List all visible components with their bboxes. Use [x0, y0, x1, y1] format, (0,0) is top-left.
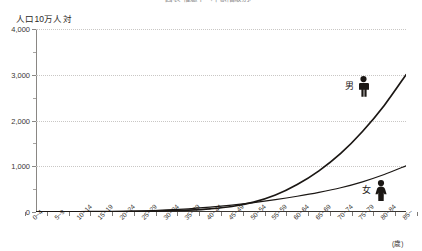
male-series-annotation: 男 — [345, 76, 370, 97]
plot-area: 4,0003,0002,0001,0000 0~45~910~1415~1920… — [36, 29, 406, 212]
x-axis-tick — [308, 212, 309, 216]
x-axis-tick — [395, 212, 396, 216]
y-axis-tick-label: 4,000 — [11, 25, 30, 34]
x-axis-tick — [265, 212, 266, 216]
x-axis-tick — [417, 212, 418, 216]
x-axis-tick — [286, 212, 287, 216]
x-axis-tick — [47, 212, 48, 216]
female-curve — [36, 166, 406, 212]
x-axis-tick — [199, 212, 200, 216]
female-pictogram-icon — [374, 180, 388, 201]
male-series-label: 男 — [345, 82, 354, 91]
chart-figure: 図表 罹患率（年齢階級別） 人口10万人対 4,0003,0002,0001,0… — [0, 0, 422, 251]
x-axis-tick — [352, 212, 353, 216]
x-axis-tick — [112, 212, 113, 216]
y-axis-tick-label: 1,000 — [11, 162, 30, 171]
x-axis-tick — [69, 212, 70, 216]
y-axis-tick-label: 3,000 — [11, 70, 30, 79]
female-series-label: 女 — [362, 186, 371, 195]
y-axis-tick-label: 2,000 — [11, 116, 30, 125]
x-axis-tick — [25, 212, 26, 216]
series-curves — [36, 29, 406, 212]
x-axis-tick — [330, 212, 331, 216]
x-axis-tick — [373, 212, 374, 216]
y-axis-unit-label: 人口10万人対 — [16, 12, 72, 24]
x-axis-unit-label: (歳) — [392, 238, 403, 248]
x-axis-tick — [156, 212, 157, 216]
x-axis-tick — [221, 212, 222, 216]
x-axis-tick — [177, 212, 178, 216]
chart-title: 図表 罹患率（年齢階級別） — [0, 0, 422, 3]
x-axis-tick — [243, 212, 244, 216]
male-pictogram-icon — [357, 76, 370, 97]
x-axis-tick — [134, 212, 135, 216]
y-axis-tick-label: 0 — [26, 208, 30, 217]
female-series-annotation: 女 — [362, 180, 388, 201]
x-axis-tick — [90, 212, 91, 216]
